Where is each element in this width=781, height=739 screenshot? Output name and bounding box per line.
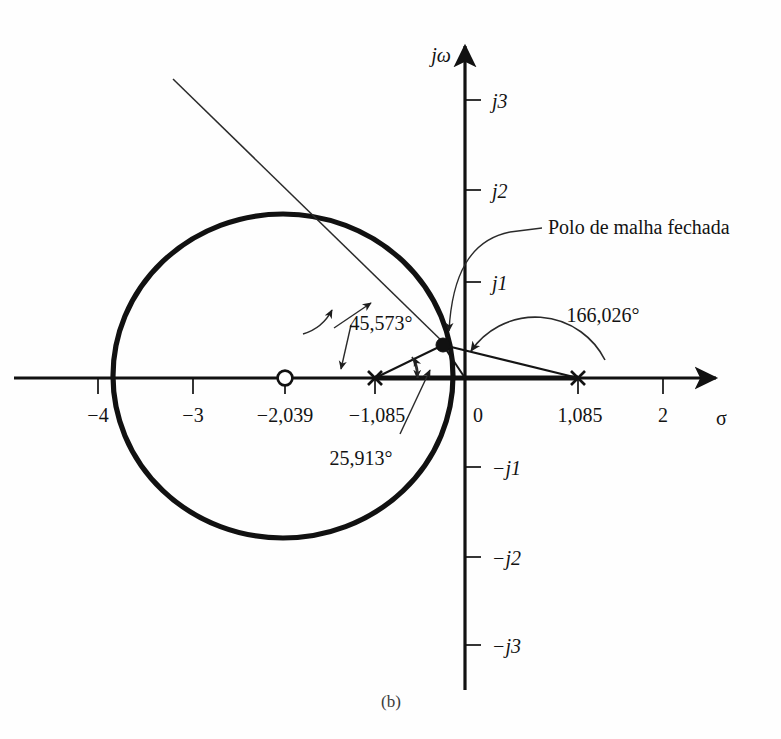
tick-label-imag--j1: −j1 <box>492 457 521 480</box>
root-locus-plot: −4 −3 −2,039 −1,085 0 1,085 2 j3 j2 j1 −… <box>0 0 781 739</box>
axis-group <box>14 46 716 690</box>
angle-label-zero: 45,573° <box>350 312 413 334</box>
vector-from-pole-left <box>375 345 443 378</box>
angle-label-pole-left: 25,913° <box>330 447 393 469</box>
tick-label-imag-j1: j1 <box>489 272 508 295</box>
angle-arc-zero <box>303 310 332 334</box>
tick-label-imag--j3: −j3 <box>492 635 521 658</box>
closed-loop-pole-callout-label: Polo de malha fechada <box>548 216 730 238</box>
closed-loop-pole-marker <box>436 338 450 352</box>
tick-label-imag-j2: j2 <box>489 180 508 203</box>
angle-vectors <box>375 345 578 378</box>
tick-label-real-1085: 1,085 <box>558 404 603 426</box>
angle-label-pole-right: 166,026° <box>567 304 640 326</box>
tick-label-imag-j3: j3 <box>489 90 508 113</box>
tick-label-real--2039: −2,039 <box>257 404 313 426</box>
tick-label-real-0: 0 <box>473 404 483 426</box>
tick-label-real--1085: −1,085 <box>349 404 405 426</box>
tick-label-imag--j2: −j2 <box>492 547 521 570</box>
real-tick-labels: −4 −3 −2,039 −1,085 0 1,085 2 <box>87 404 668 426</box>
imag-axis-ticks <box>465 100 481 645</box>
real-axis-label: σ <box>716 407 727 429</box>
constant-angle-line <box>173 79 446 345</box>
tick-label-real--4: −4 <box>87 404 108 426</box>
angle-arc-pole-left <box>412 357 418 378</box>
vector-from-pole-right <box>443 345 578 378</box>
imag-tick-labels: j3 j2 j1 −j1 −j2 −j3 <box>489 90 521 658</box>
tick-label-real-2: 2 <box>658 404 668 426</box>
tick-label-real--3: −3 <box>182 404 203 426</box>
imaginary-axis-label: jω <box>428 44 451 67</box>
open-loop-zero-marker <box>278 371 293 386</box>
root-locus-figure: −4 −3 −2,039 −1,085 0 1,085 2 j3 j2 j1 −… <box>0 0 781 739</box>
figure-caption: (b) <box>381 692 401 711</box>
